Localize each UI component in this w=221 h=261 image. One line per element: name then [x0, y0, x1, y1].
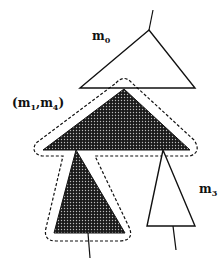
tree-diagram: [0, 0, 221, 261]
top-stem-edge: [149, 10, 153, 30]
label-m0-base: m: [92, 29, 105, 43]
label-m3: m3: [199, 183, 217, 197]
bottom-right-stem-edge: [173, 226, 176, 250]
label-m0: m0: [92, 30, 110, 44]
bottom-left-stem-edge: [88, 233, 90, 258]
label-m4-base: m: [40, 96, 53, 110]
label-group-m1-m4: (m1,m4): [12, 97, 64, 111]
triangle-m3: [147, 150, 195, 226]
triangle-m1-shaded: [43, 89, 190, 150]
label-m3-base: m: [199, 182, 212, 196]
label-m3-sub: 3: [212, 188, 218, 198]
label-m1-base: m: [18, 96, 31, 110]
diagram-canvas: m0 (m1,m4) m3: [0, 0, 221, 261]
label-m0-sub: 0: [105, 35, 111, 45]
triangle-m4-shaded: [54, 150, 125, 233]
paren-close: ): [58, 96, 64, 110]
